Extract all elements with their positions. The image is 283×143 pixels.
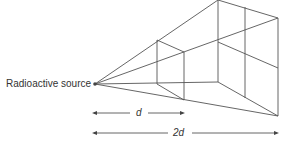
- distance-2d-label: 2d: [173, 127, 184, 138]
- source-dot: [93, 82, 97, 86]
- source-label: Radioactive source: [6, 78, 91, 89]
- distance-d-label: d: [136, 107, 142, 118]
- inverse-square-diagram: [0, 0, 283, 143]
